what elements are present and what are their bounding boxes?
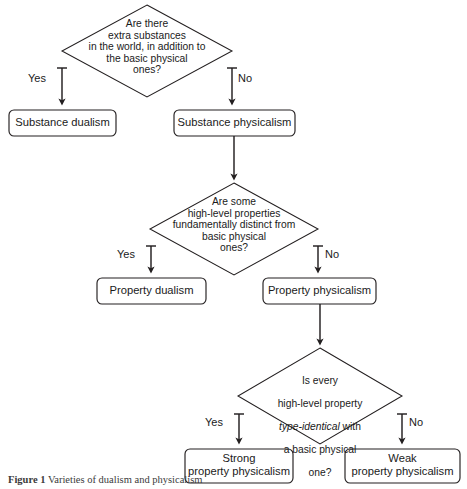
edge-label-d3-yes: Yes — [205, 416, 223, 428]
figure-caption: Figure 1 Varieties of dualism and physic… — [8, 474, 202, 485]
edge-label-d2-no: No — [325, 248, 339, 260]
decision-diamond-3 — [238, 348, 402, 444]
decision-diamond-1 — [62, 5, 232, 97]
figure-caption-label: Figure 1 — [8, 474, 45, 485]
flowchart-diagram: Are there extra substances in the world,… — [0, 0, 467, 489]
box-substance-physicalism — [174, 110, 295, 136]
box-property-physicalism — [263, 278, 376, 304]
edge-label-d2-yes: Yes — [117, 248, 135, 260]
decision-diamond-2 — [150, 183, 318, 275]
box-substance-dualism — [9, 110, 116, 136]
flowchart-canvas — [0, 0, 467, 489]
box-property-dualism — [97, 278, 206, 304]
edge-label-d1-no: No — [238, 72, 252, 84]
figure-caption-text: Varieties of dualism and physicalism — [48, 474, 203, 485]
box-weak-property-physicalism — [345, 449, 460, 483]
edge-label-d1-yes: Yes — [28, 72, 46, 84]
edge-label-d3-no: No — [409, 416, 423, 428]
